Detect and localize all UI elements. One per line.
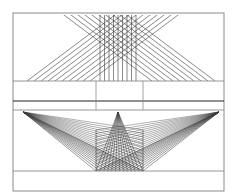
diagram-drawing	[0, 0, 238, 196]
perspective-diagram	[0, 0, 238, 196]
background	[0, 0, 238, 196]
